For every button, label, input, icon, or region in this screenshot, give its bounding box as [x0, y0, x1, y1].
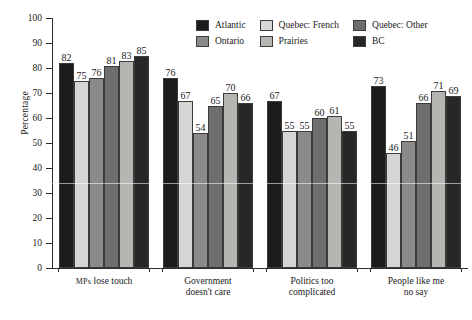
bar-group: 827576818385MPs lose touch [52, 18, 156, 268]
bar-slot: 55 [282, 18, 297, 268]
bar-value-label: 66 [241, 93, 251, 103]
bar[interactable]: 61 [327, 116, 342, 269]
y-tick-mark [46, 268, 53, 269]
bar[interactable]: 75 [74, 81, 89, 269]
bar[interactable]: 83 [119, 61, 134, 269]
y-tick-label: 100 [28, 13, 42, 23]
bar-slot: 55 [342, 18, 357, 268]
bar[interactable]: 54 [193, 133, 208, 268]
bar-value-label: 73 [374, 76, 384, 86]
bar[interactable]: 55 [282, 131, 297, 269]
y-tick-label: 60 [33, 113, 43, 123]
bar-value-label: 67 [181, 91, 191, 101]
bar-slot: 75 [74, 18, 89, 268]
bar-value-label: 71 [434, 81, 444, 91]
bar-group: 675555606155Politics toocomplicated [260, 18, 364, 268]
bar[interactable]: 60 [312, 118, 327, 268]
bar-value-label: 46 [389, 143, 399, 153]
bar-value-label: 60 [315, 108, 325, 118]
bar-value-label: 76 [166, 68, 176, 78]
bar[interactable]: 65 [208, 106, 223, 269]
bar-slot: 73 [371, 18, 386, 268]
category-label: Politics toocomplicated [260, 276, 364, 298]
bar[interactable]: 82 [59, 63, 74, 268]
bar-slot: 65 [208, 18, 223, 268]
legend-item-bc[interactable]: BC [353, 36, 428, 47]
bar-value-label: 61 [330, 106, 340, 116]
bar[interactable]: 46 [386, 153, 401, 268]
bar-slot: 55 [297, 18, 312, 268]
bar-slot: 46 [386, 18, 401, 268]
bar-slot: 82 [59, 18, 74, 268]
bar-slot: 85 [134, 18, 149, 268]
bar-slot: 71 [431, 18, 446, 268]
bar-group-bars: 734651667169 [364, 18, 468, 268]
y-tick-label: 10 [33, 238, 43, 248]
legend-label: Ontario [215, 37, 244, 47]
bar[interactable]: 76 [163, 78, 178, 268]
legend-item-ontario[interactable]: Ontario [196, 36, 246, 47]
bar-slot: 54 [193, 18, 208, 268]
bar-value-label: 65 [211, 96, 221, 106]
legend-swatch [196, 36, 209, 47]
bar-slot: 76 [89, 18, 104, 268]
group-tick-right [461, 268, 462, 272]
category-label-smallcaps: MPs [76, 277, 92, 286]
bar-group: 766754657066Governmentdoesn't care [156, 18, 260, 268]
legend-item-quebec-other[interactable]: Quebec: Other [353, 20, 428, 31]
bar-slot: 81 [104, 18, 119, 268]
y-tick-label: 40 [33, 163, 43, 173]
bar-slot: 69 [446, 18, 461, 268]
legend-swatch [260, 20, 273, 31]
y-axis-title: Percentage [20, 58, 30, 168]
bar-value-label: 55 [345, 121, 355, 131]
legend-label: BC [372, 37, 385, 47]
legend-item-prairies[interactable]: Prairies [260, 36, 339, 47]
group-tick-right [357, 268, 358, 272]
y-tick-label: 50 [33, 138, 43, 148]
group-tick-left [58, 268, 59, 272]
bar-value-label: 69 [449, 86, 459, 96]
y-tick-label: 20 [33, 213, 43, 223]
bar-value-label: 66 [419, 93, 429, 103]
bar[interactable]: 81 [104, 66, 119, 269]
bar-group-bars: 675555606155 [260, 18, 364, 268]
bar-slot: 67 [267, 18, 282, 268]
bar[interactable]: 71 [431, 91, 446, 269]
bar[interactable]: 70 [223, 93, 238, 268]
bar[interactable]: 67 [178, 101, 193, 269]
legend-item-quebec-french[interactable]: Quebec: French [260, 20, 339, 31]
bar-value-label: 83 [122, 51, 132, 61]
bar-groups: 827576818385MPs lose touch766754657066Go… [52, 18, 468, 268]
bar-value-label: 51 [404, 131, 414, 141]
legend-label: Atlantic [215, 21, 246, 31]
group-tick-left [370, 268, 371, 272]
bar[interactable]: 66 [416, 103, 431, 268]
y-tick-label: 70 [33, 88, 43, 98]
legend-label: Quebec: Other [372, 21, 428, 31]
legend-label: Prairies [279, 37, 308, 47]
bar-value-label: 70 [226, 83, 236, 93]
legend-swatch [260, 36, 273, 47]
bar[interactable]: 67 [267, 101, 282, 269]
bar[interactable]: 55 [342, 131, 357, 269]
bar[interactable]: 55 [297, 131, 312, 269]
y-tick-label: 80 [33, 63, 43, 73]
bar[interactable]: 76 [89, 78, 104, 268]
group-tick-right [149, 268, 150, 272]
bar[interactable]: 66 [238, 103, 253, 268]
group-tick-left [162, 268, 163, 272]
bar-value-label: 81 [107, 56, 117, 66]
legend-item-atlantic[interactable]: Atlantic [196, 20, 246, 31]
bar[interactable]: 85 [134, 56, 149, 269]
bar-slot: 60 [312, 18, 327, 268]
legend-swatch [353, 36, 366, 47]
legend-label: Quebec: French [279, 21, 339, 31]
bar[interactable]: 69 [446, 96, 461, 269]
bar[interactable]: 73 [371, 86, 386, 269]
y-tick-label: 30 [33, 188, 43, 198]
group-tick-left [266, 268, 267, 272]
bar-value-label: 82 [62, 53, 72, 63]
bar-slot: 66 [238, 18, 253, 268]
bar[interactable]: 51 [401, 141, 416, 269]
